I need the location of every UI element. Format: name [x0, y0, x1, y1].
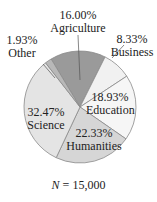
label-education: 18.93% Education	[86, 91, 134, 117]
label-humanities: 22.33% Humanities	[64, 127, 124, 153]
label-science: 32.47% Science	[26, 106, 66, 132]
label-agriculture: 16.00% Agriculture	[46, 9, 110, 35]
label-business: 8.33% Business	[108, 33, 156, 59]
label-other: 1.93% Other	[6, 34, 38, 60]
sample-size-note: N = 15,000	[0, 178, 157, 193]
